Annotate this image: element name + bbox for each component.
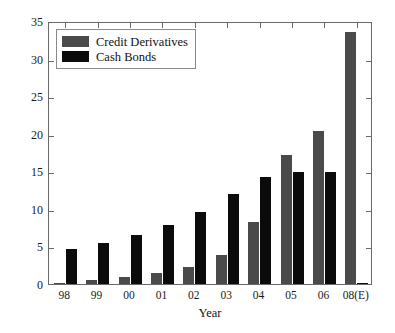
plot-area: Credit Derivatives Cash Bonds	[48, 22, 372, 285]
bar-credit-derivatives-98	[54, 283, 65, 285]
bar-cash-bonds-99	[98, 243, 109, 284]
bar-cash-bonds-05	[293, 172, 304, 284]
bar-cash-bonds-08E	[357, 283, 368, 284]
bar-cash-bonds-01	[163, 225, 174, 284]
chart-legend: Credit Derivatives Cash Bonds	[56, 29, 196, 69]
x-axis-title: Year	[48, 306, 372, 321]
bar-credit-derivatives-05	[281, 155, 292, 284]
bar-chart-figure: Amount Outstanding (Trillion $) 05101520…	[0, 0, 395, 333]
y-axis-tick-label: 30	[3, 54, 43, 66]
legend-item-credit-derivatives: Credit Derivatives	[62, 34, 188, 49]
bar-credit-derivatives-02	[183, 267, 194, 284]
y-axis-tick-label: 35	[3, 16, 43, 28]
bar-credit-derivatives-99	[86, 280, 97, 285]
legend-label-credit-derivatives: Credit Derivatives	[96, 35, 188, 49]
bar-credit-derivatives-08E	[345, 32, 356, 284]
bar-cash-bonds-00	[131, 235, 142, 284]
bar-credit-derivatives-04	[248, 222, 259, 284]
legend-item-cash-bonds: Cash Bonds	[62, 49, 188, 64]
y-axis-tick-label: 15	[3, 166, 43, 178]
bar-cash-bonds-98	[66, 249, 77, 284]
legend-swatch-icon-cash-bonds	[62, 51, 89, 62]
bar-credit-derivatives-01	[151, 273, 162, 284]
legend-swatch-icon-credit-derivatives	[62, 36, 89, 47]
x-axis-category-label: 08(E)	[326, 289, 386, 302]
y-axis-tick-label: 5	[3, 241, 43, 253]
bar-cash-bonds-03	[228, 194, 239, 284]
y-axis-tick-label: 20	[3, 129, 43, 141]
bar-credit-derivatives-00	[119, 277, 130, 284]
bar-cash-bonds-04	[260, 177, 271, 284]
bar-credit-derivatives-03	[216, 255, 227, 284]
y-axis-tick-label: 10	[3, 204, 43, 216]
legend-label-cash-bonds: Cash Bonds	[96, 50, 156, 64]
bar-cash-bonds-06	[325, 172, 336, 284]
bar-cash-bonds-02	[195, 212, 206, 284]
bar-credit-derivatives-06	[313, 131, 324, 284]
y-axis-tick-label: 25	[3, 91, 43, 103]
